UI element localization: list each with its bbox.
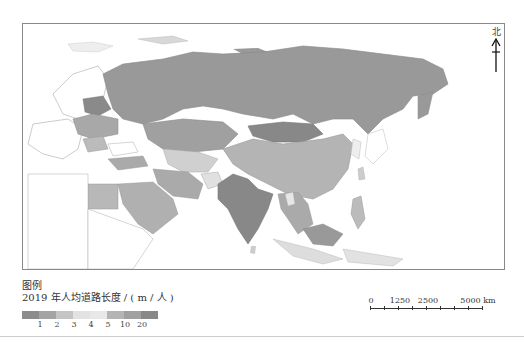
scale-label: 2500 — [418, 296, 438, 305]
scale-label: 1250 — [390, 296, 410, 305]
legend-swatch — [141, 311, 158, 319]
legend-tick: 10 — [120, 320, 130, 329]
page-divider — [0, 336, 524, 337]
legend-subtitle: 2019 年人均道路长度 / ( m / 人 ) — [22, 292, 174, 304]
north-arrow-icon — [490, 38, 502, 72]
legend-tick: 1 — [37, 320, 42, 329]
legend-color-bar — [22, 311, 158, 319]
legend-title: 图例 — [22, 280, 42, 292]
legend-swatch — [73, 311, 90, 319]
scale-tick — [370, 306, 371, 310]
map-frame — [22, 23, 505, 270]
north-label: 北 — [490, 25, 502, 38]
legend-swatch — [90, 311, 107, 319]
legend-tick: 3 — [71, 320, 76, 329]
legend-swatch — [124, 311, 141, 319]
scale-tick — [398, 306, 399, 310]
scale-tick — [440, 306, 441, 310]
scale-bar: 0 1250 2500 5000 km — [370, 296, 490, 316]
legend-swatch — [22, 311, 39, 319]
scale-label: 5000 km — [460, 296, 495, 305]
scale-tick — [384, 306, 385, 310]
scale-tick — [426, 306, 427, 310]
legend-tick: 20 — [137, 320, 147, 329]
scale-tick — [468, 306, 469, 310]
asia-choropleth-map — [23, 24, 504, 269]
scale-tick — [454, 306, 455, 310]
scale-tick — [482, 306, 483, 310]
legend-swatch — [56, 311, 73, 319]
legend-swatch — [39, 311, 56, 319]
scale-tick — [412, 306, 413, 310]
legend-tick: 2 — [54, 320, 59, 329]
legend-swatch — [107, 311, 124, 319]
north-arrow: 北 — [490, 25, 502, 76]
legend-tick: 4 — [88, 320, 93, 329]
scale-label: 0 — [368, 296, 373, 305]
legend-tick: 5 — [105, 320, 110, 329]
